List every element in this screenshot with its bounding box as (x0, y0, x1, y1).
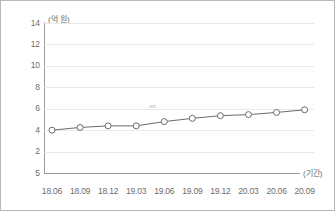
data-point-marker (161, 119, 167, 125)
data-series (1, 1, 335, 211)
x-axis-title: (기간) (303, 170, 322, 178)
data-point-marker (302, 107, 308, 113)
data-point-marker (49, 127, 55, 133)
data-point-marker (133, 123, 139, 129)
x-axis-tick-label: 20.09 (288, 187, 322, 196)
data-point-marker (217, 113, 223, 119)
series-line (52, 110, 305, 130)
data-point-marker (274, 109, 280, 115)
chart-container: (억 원) 14121086425 (기간) 18.0618.0918.1219… (0, 0, 335, 211)
data-point-marker (245, 112, 251, 118)
data-point-marker (189, 115, 195, 121)
data-point-marker (105, 123, 111, 129)
x-axis-tick-labels: 18.0618.0918.1219.0319.0619.0919.1220.03… (1, 187, 335, 201)
data-point-marker (77, 124, 83, 130)
